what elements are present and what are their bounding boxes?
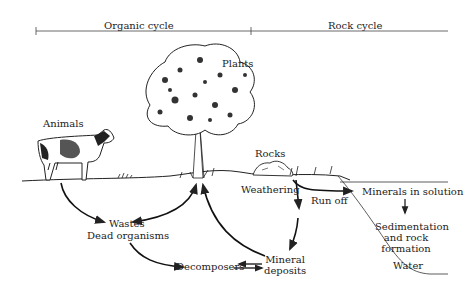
rocks-label: Rocks — [255, 148, 285, 159]
grass-icon — [118, 173, 132, 178]
run-off-label: Run off — [311, 195, 348, 206]
dead-organisms-label: Dead organisms — [87, 230, 169, 241]
weathering-label: Weathering — [241, 184, 300, 195]
rock-cycle-label: Rock cycle — [328, 20, 382, 31]
wastes-label: Wastes — [109, 218, 145, 229]
arrow-animals-to-wastes — [61, 183, 104, 222]
ground-line — [22, 171, 350, 181]
minerals-in-solution-label: Minerals in solution — [362, 186, 463, 197]
nutrient-cycle-diagram: Organic cycle Rock cycle Animals Plants … — [0, 0, 468, 291]
animals-label: Animals — [43, 118, 84, 129]
plants-label: Plants — [222, 58, 253, 69]
organic-cycle-label: Organic cycle — [104, 20, 174, 31]
rocks-icon — [253, 161, 332, 176]
sedimentation-label: Sedimentation and rock formation — [375, 221, 437, 254]
cycle-bracket — [36, 27, 448, 35]
water-label: Water — [393, 260, 423, 271]
arrow-minerals-to-plants — [203, 185, 265, 256]
decomposers-label: Decomposers — [176, 261, 244, 272]
arrow-to-mineral-deposits — [290, 218, 298, 249]
cow-icon — [38, 129, 114, 180]
mineral-deposits-label: Mineral deposits — [264, 254, 306, 276]
arrow-plants-wastes — [133, 185, 196, 222]
